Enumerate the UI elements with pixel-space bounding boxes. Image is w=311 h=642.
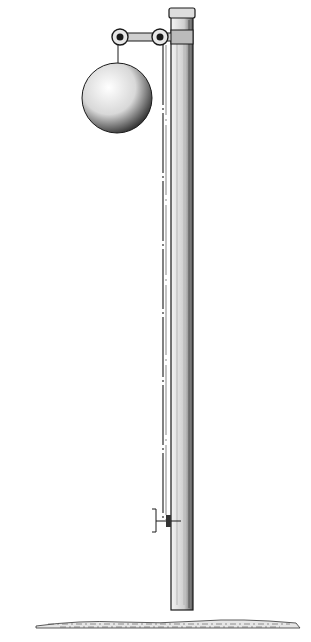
ground: [36, 620, 300, 628]
time-ball-illustration: [0, 0, 311, 642]
pulley-left: [112, 29, 128, 45]
cord: [163, 45, 166, 520]
pole-cap: [169, 8, 195, 18]
pulley-right: [152, 29, 168, 45]
ball: [82, 63, 152, 133]
